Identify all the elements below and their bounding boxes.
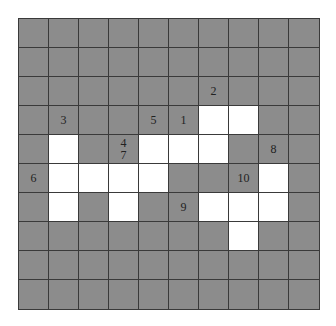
open-cell[interactable]	[49, 135, 79, 164]
open-cell[interactable]	[229, 106, 259, 135]
blocked-cell	[259, 222, 289, 251]
clue-number: 9	[169, 201, 198, 213]
blocked-cell	[79, 251, 109, 280]
blocked-cell	[289, 106, 319, 135]
blocked-cell	[199, 280, 229, 309]
open-cell[interactable]	[79, 164, 109, 193]
blocked-cell	[229, 135, 259, 164]
blocked-cell: 8	[259, 135, 289, 164]
open-cell[interactable]	[229, 222, 259, 251]
blocked-cell	[19, 48, 49, 77]
blocked-cell	[49, 280, 79, 309]
blocked-cell	[79, 19, 109, 48]
blocked-cell	[229, 77, 259, 106]
blocked-cell	[289, 193, 319, 222]
blocked-cell	[289, 135, 319, 164]
blocked-cell	[19, 251, 49, 280]
blocked-cell	[259, 280, 289, 309]
blocked-cell	[49, 48, 79, 77]
blocked-cell	[109, 77, 139, 106]
blocked-cell	[289, 48, 319, 77]
blocked-cell	[139, 280, 169, 309]
clue-number: 1	[169, 114, 198, 126]
blocked-cell: 4 7	[109, 135, 139, 164]
blocked-cell	[19, 135, 49, 164]
blocked-cell	[259, 251, 289, 280]
blocked-cell: 3	[49, 106, 79, 135]
blocked-cell	[109, 251, 139, 280]
blocked-cell	[289, 77, 319, 106]
blocked-cell	[139, 19, 169, 48]
open-cell[interactable]	[259, 164, 289, 193]
clue-number: 4 7	[109, 137, 138, 161]
blocked-cell: 2	[199, 77, 229, 106]
crossword-grid: 23514 786109	[18, 18, 320, 310]
blocked-cell: 1	[169, 106, 199, 135]
blocked-cell	[19, 19, 49, 48]
blocked-cell	[169, 164, 199, 193]
blocked-cell	[259, 77, 289, 106]
blocked-cell	[139, 77, 169, 106]
blocked-cell: 10	[229, 164, 259, 193]
blocked-cell	[289, 251, 319, 280]
clue-number: 6	[19, 172, 48, 184]
blocked-cell	[19, 77, 49, 106]
open-cell[interactable]	[109, 193, 139, 222]
blocked-cell	[139, 48, 169, 77]
blocked-cell	[19, 222, 49, 251]
blocked-cell	[199, 164, 229, 193]
blocked-cell	[109, 280, 139, 309]
blocked-cell	[199, 222, 229, 251]
blocked-cell	[199, 48, 229, 77]
blocked-cell	[109, 222, 139, 251]
blocked-cell	[259, 106, 289, 135]
blocked-cell	[259, 19, 289, 48]
blocked-cell	[229, 251, 259, 280]
blocked-cell	[199, 19, 229, 48]
blocked-cell	[169, 280, 199, 309]
blocked-cell	[79, 135, 109, 164]
blocked-cell	[199, 251, 229, 280]
clue-number: 5	[139, 114, 168, 126]
open-cell[interactable]	[199, 135, 229, 164]
open-cell[interactable]	[139, 164, 169, 193]
blocked-cell	[259, 48, 289, 77]
open-cell[interactable]	[229, 193, 259, 222]
blocked-cell	[49, 77, 79, 106]
clue-number: 2	[199, 85, 228, 97]
blocked-cell	[139, 251, 169, 280]
open-cell[interactable]	[49, 193, 79, 222]
blocked-cell	[109, 106, 139, 135]
blocked-cell	[169, 251, 199, 280]
blocked-cell	[109, 19, 139, 48]
open-cell[interactable]	[199, 193, 229, 222]
open-cell[interactable]	[139, 135, 169, 164]
blocked-cell	[169, 48, 199, 77]
blocked-cell	[139, 222, 169, 251]
clue-number: 3	[49, 114, 78, 126]
blocked-cell	[169, 19, 199, 48]
blocked-cell	[49, 222, 79, 251]
blocked-cell	[19, 106, 49, 135]
blocked-cell	[79, 77, 109, 106]
open-cell[interactable]	[169, 135, 199, 164]
blocked-cell	[19, 193, 49, 222]
clue-number: 10	[229, 172, 258, 184]
blocked-cell	[19, 280, 49, 309]
clue-number: 8	[259, 143, 288, 155]
blocked-cell	[49, 19, 79, 48]
open-cell[interactable]	[259, 193, 289, 222]
open-cell[interactable]	[199, 106, 229, 135]
blocked-cell	[109, 48, 139, 77]
blocked-cell	[229, 280, 259, 309]
blocked-cell: 5	[139, 106, 169, 135]
blocked-cell	[289, 19, 319, 48]
open-cell[interactable]	[49, 164, 79, 193]
blocked-cell	[49, 251, 79, 280]
blocked-cell	[139, 193, 169, 222]
open-cell[interactable]	[109, 164, 139, 193]
blocked-cell	[289, 280, 319, 309]
blocked-cell	[229, 48, 259, 77]
blocked-cell	[289, 164, 319, 193]
blocked-cell	[289, 222, 319, 251]
